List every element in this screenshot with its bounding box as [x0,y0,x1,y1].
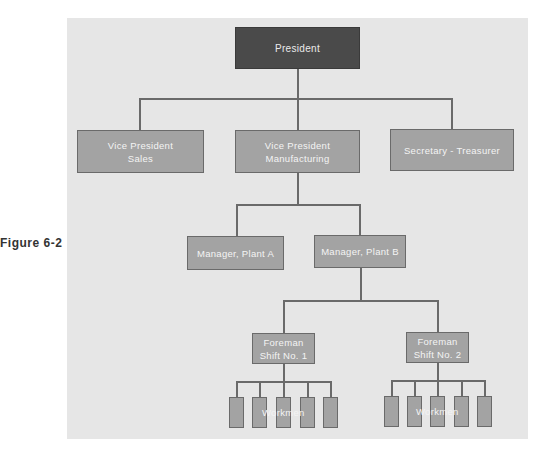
connector [259,381,261,397]
node-label: Shift No. 2 [414,348,462,361]
node-label: President [275,42,320,55]
connector [391,380,393,397]
connector [437,300,439,332]
connector [139,98,141,130]
connector [236,381,238,397]
connector [414,380,416,397]
connector [283,300,285,333]
node-label: Manager, Plant A [197,247,274,260]
workman-box [323,397,338,428]
connector [359,204,361,235]
connector [236,204,360,206]
workmen-label: Workmen [262,407,305,418]
connector [236,204,238,236]
workman-box [229,397,244,428]
workman-box [384,396,399,427]
node-vp-manufacturing: Vice President Manufacturing [235,130,360,173]
workman-box [477,396,492,427]
node-president: President [235,27,360,69]
connector [297,172,299,204]
connector [330,381,332,397]
node-label: Shift No. 1 [260,349,308,362]
node-foreman-shift-2: Foreman Shift No. 2 [406,332,469,363]
node-label: Vice President [265,139,330,152]
connector [139,98,452,100]
node-vp-sales: Vice President Sales [77,130,204,173]
node-secretary-treasurer: Secretary - Treasurer [390,129,514,171]
connector [391,380,485,382]
figure-label: Figure 6-2 [0,236,62,250]
connector [307,381,309,397]
node-manager-plant-b: Manager, Plant B [314,235,406,268]
connector [360,268,362,300]
node-label: Foreman [263,336,303,349]
node-foreman-shift-1: Foreman Shift No. 1 [252,333,315,364]
connector [461,380,463,397]
node-label: Foreman [417,335,457,348]
node-label: Manager, Plant B [321,245,399,258]
node-label: Sales [128,152,153,165]
connector [484,380,486,397]
node-manager-plant-a: Manager, Plant A [187,236,284,270]
connector [283,300,438,302]
node-label: Manufacturing [265,152,329,165]
node-label: Secretary - Treasurer [404,144,500,157]
connector [236,381,331,383]
connector [451,98,453,129]
workmen-label: Workmen [416,406,459,417]
node-label: Vice President [108,139,173,152]
connector [283,363,285,397]
